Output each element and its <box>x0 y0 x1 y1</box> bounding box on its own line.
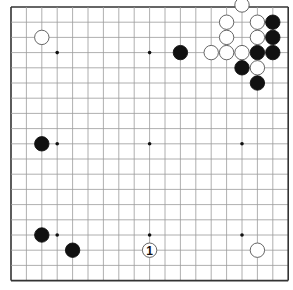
black-stone <box>266 45 280 59</box>
star-point <box>148 51 152 55</box>
star-point <box>55 142 59 146</box>
white-stone <box>250 30 264 44</box>
star-point <box>55 233 59 237</box>
white-stone <box>235 0 249 12</box>
go-board[interactable]: 1 <box>0 0 293 290</box>
move-number-label: 1 <box>146 244 153 258</box>
white-stone <box>35 30 49 44</box>
black-stone <box>250 45 264 59</box>
white-stone <box>250 243 264 257</box>
white-stone: 1 <box>142 243 156 258</box>
white-stone <box>250 15 264 29</box>
star-point <box>240 142 244 146</box>
white-stone <box>235 45 249 59</box>
black-stone <box>35 137 49 151</box>
white-stone <box>219 45 233 59</box>
black-stone <box>235 61 249 75</box>
black-stone <box>266 30 280 44</box>
star-point <box>240 233 244 237</box>
star-point <box>148 142 152 146</box>
star-point <box>148 233 152 237</box>
white-stone <box>204 45 218 59</box>
black-stone <box>173 45 187 59</box>
black-stone <box>35 228 49 242</box>
black-stone <box>65 243 79 257</box>
black-stone <box>250 76 264 90</box>
white-stone <box>219 30 233 44</box>
white-stone <box>219 15 233 29</box>
star-point <box>55 51 59 55</box>
black-stone <box>266 15 280 29</box>
white-stone <box>250 61 264 75</box>
